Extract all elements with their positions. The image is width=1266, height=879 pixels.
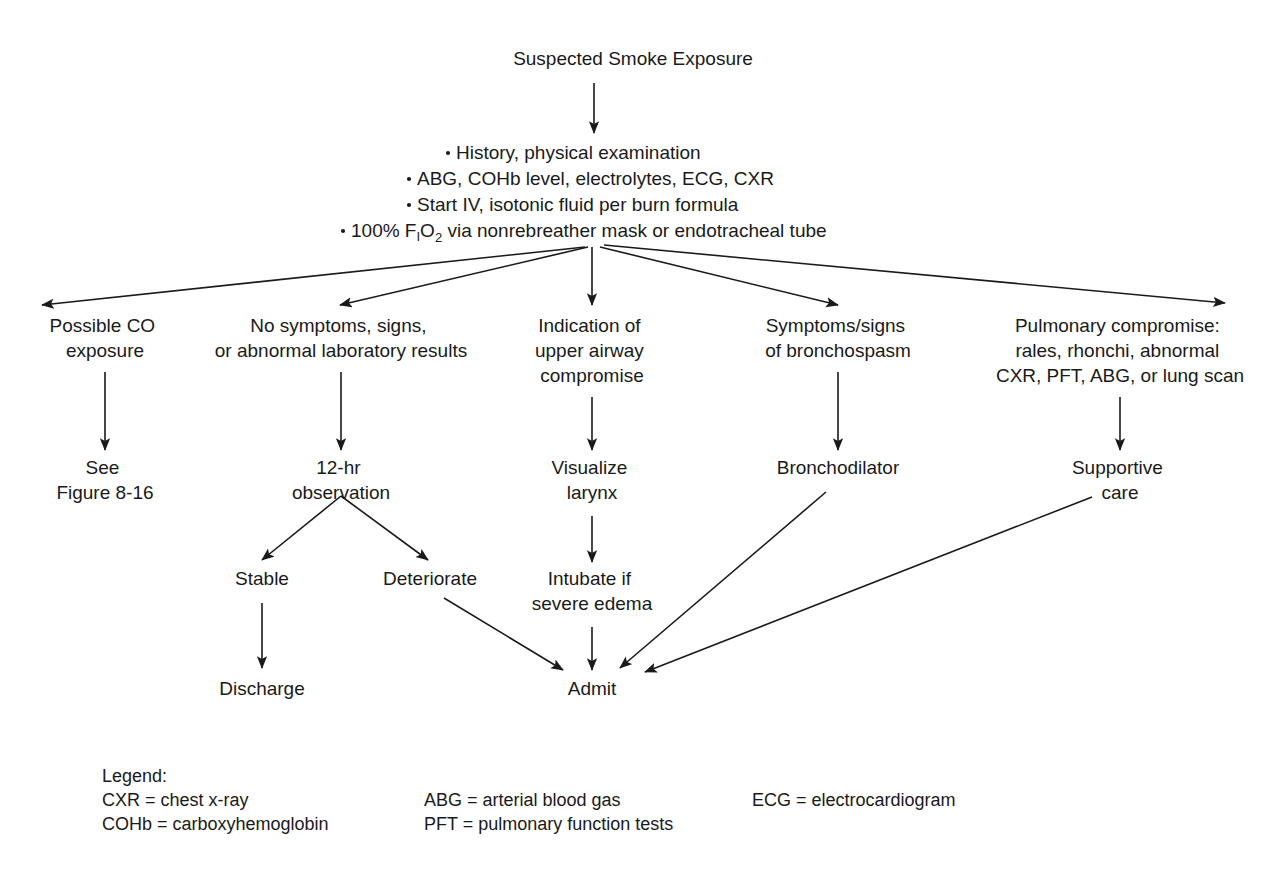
edge-workup-to-branch-5	[604, 245, 1225, 303]
node-deteriorate: Deteriorate	[383, 568, 477, 589]
branch-4-line-1: Symptoms/signs	[766, 315, 905, 336]
branch-1-line-2: exposure	[66, 340, 144, 361]
branch-1-line-1: Possible CO	[50, 315, 156, 336]
workup-bullet-4-pre: 100% F	[351, 220, 416, 241]
node-suspected-smoke-exposure: Suspected Smoke Exposure	[513, 48, 753, 69]
discharge-line-1: Discharge	[219, 678, 305, 699]
flowchart-diagram: Suspected Smoke Exposure History, physic…	[0, 0, 1266, 879]
node-visualize-larynx: Visualize larynx	[552, 457, 633, 503]
edge-observation-to-deteriorate	[341, 496, 428, 560]
workup-bullet-1-label: History, physical examination	[456, 142, 701, 163]
branch-3-line-3: compromise	[540, 365, 643, 386]
legend-item-pft: PFT = pulmonary function tests	[424, 814, 673, 834]
see-figure-line-1: See	[85, 457, 119, 478]
node-intubate: Intubate if severe edema	[532, 568, 653, 614]
branch-upper-airway: Indication of upper airway compromise	[535, 315, 649, 386]
legend-item-ecg: ECG = electrocardiogram	[752, 790, 956, 810]
stable-line-1: Stable	[235, 568, 289, 589]
workup-bullet-4-sub2: 2	[435, 230, 442, 245]
bronchodilator-line-1: Bronchodilator	[777, 457, 900, 478]
workup-bullet-4: 100% FIO2 via nonrebreather mask or endo…	[351, 220, 827, 245]
bullet-marker-3	[407, 203, 411, 207]
node-bronchodilator: Bronchodilator	[777, 457, 900, 478]
edge-supportive-care-to-admit	[645, 497, 1092, 672]
supportive-care-line-2: care	[1102, 482, 1139, 503]
observation-line-2: observation	[292, 482, 390, 503]
supportive-care-line-1: Supportive	[1072, 457, 1163, 478]
bullet-marker-1	[446, 151, 450, 155]
edge-observation-to-stable	[262, 496, 341, 560]
workup-bullet-3-label: Start IV, isotonic fluid per burn formul…	[417, 194, 739, 215]
node-supportive-care: Supportive care	[1072, 457, 1168, 503]
branch-possible-co-exposure: Possible CO exposure	[50, 315, 161, 361]
deteriorate-line-1: Deteriorate	[383, 568, 477, 589]
bullet-marker-2	[407, 177, 411, 181]
visualize-larynx-line-2: larynx	[567, 482, 618, 503]
branch-5-line-1: Pulmonary compromise:	[1015, 315, 1220, 336]
workup-bullet-3: Start IV, isotonic fluid per burn formul…	[417, 194, 739, 215]
edge-workup-to-branch-2	[340, 247, 588, 305]
admit-line-1: Admit	[568, 678, 617, 699]
branch-5-line-2: rales, rhonchi, abnormal	[1015, 340, 1219, 361]
branch-3-line-1: Indication of	[538, 315, 641, 336]
node-discharge: Discharge	[219, 678, 305, 699]
legend-item-abg: ABG = arterial blood gas	[424, 790, 621, 810]
intubate-line-2: severe edema	[532, 593, 653, 614]
legend-item-cohb: COHb = carboxyhemoglobin	[102, 814, 329, 834]
branch-2-line-2: or abnormal laboratory results	[215, 340, 467, 361]
workup-bullet-2: ABG, COHb level, electrolytes, ECG, CXR	[417, 168, 774, 189]
workup-bullet-1: History, physical examination	[456, 142, 701, 163]
branch-4-line-2: of bronchospasm	[765, 340, 911, 361]
node-admit: Admit	[568, 678, 617, 699]
legend-item-cxr: CXR = chest x-ray	[102, 790, 249, 810]
legend-heading: Legend:	[102, 766, 167, 786]
observation-line-1: 12-hr	[316, 457, 361, 478]
node-stable: Stable	[235, 568, 289, 589]
branch-5-line-3: CXR, PFT, ABG, or lung scan	[996, 365, 1244, 386]
branch-2-line-1: No symptoms, signs,	[250, 315, 426, 336]
bullet-marker-4	[341, 229, 345, 233]
branch-bronchospasm: Symptoms/signs of bronchospasm	[765, 315, 911, 361]
visualize-larynx-line-1: Visualize	[552, 457, 628, 478]
branch-pulmonary-compromise: Pulmonary compromise: rales, rhonchi, ab…	[996, 315, 1244, 386]
see-figure-line-2: Figure 8-16	[56, 482, 153, 503]
intubate-line-1: Intubate if	[548, 568, 632, 589]
workup-bullet-4-mid: O	[420, 220, 435, 241]
branch-no-symptoms: No symptoms, signs, or abnormal laborato…	[215, 315, 467, 361]
edge-workup-to-branch-1	[42, 247, 585, 305]
workup-bullet-4-post: via nonrebreather mask or endotracheal t…	[442, 220, 826, 241]
workup-bullet-2-label: ABG, COHb level, electrolytes, ECG, CXR	[417, 168, 774, 189]
branch-3-line-2: upper airway	[535, 340, 644, 361]
node-see-figure: See Figure 8-16	[56, 457, 153, 503]
